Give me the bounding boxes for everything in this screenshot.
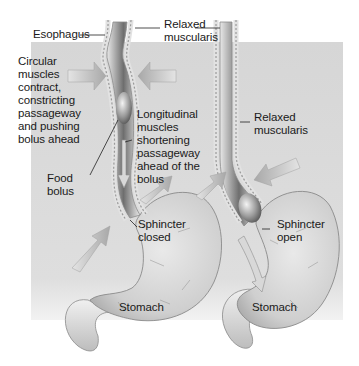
label-stomach-right: Stomach [252, 301, 297, 314]
left-food-bolus [116, 92, 132, 124]
label-esophagus: Esophagus [33, 28, 90, 41]
label-food-bolus: Food bolus [47, 172, 74, 198]
label-longitudinal-muscles: Longitudinal muscles shortening passagew… [137, 108, 200, 186]
label-relaxed-muscularis-right: Relaxed muscularis [254, 111, 308, 137]
diagram-figure: Esophagus Relaxed muscularis Circular mu… [0, 0, 359, 366]
label-sphincter-closed: Sphincter closed [138, 218, 186, 244]
label-stomach-left: Stomach [119, 301, 164, 314]
label-circular-muscles: Circular muscles contract, constricting … [18, 55, 81, 146]
label-relaxed-muscularis-top: Relaxed muscularis [164, 18, 218, 44]
label-sphincter-open: Sphincter open [277, 218, 325, 244]
